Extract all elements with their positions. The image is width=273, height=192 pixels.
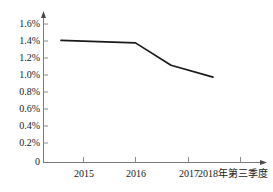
data-series-line <box>61 40 213 77</box>
chart-canvas <box>0 0 273 192</box>
x-axis-arrow-icon <box>260 160 267 165</box>
y-tick-label-4: 1.0% <box>4 70 40 80</box>
y-tick-label-8: 0.2% <box>4 138 40 148</box>
y-tick-label-7: 0.4% <box>4 121 40 131</box>
x-tick-label-2016: 2016 <box>110 168 162 179</box>
x-tick-label-2015: 2015 <box>58 168 110 179</box>
y-tick-label-5: 0.8% <box>4 87 40 97</box>
x-axis-ticks <box>84 157 241 163</box>
y-tick-label-2: 1.4% <box>4 36 40 46</box>
y-tick-label-9: 0 <box>4 157 40 167</box>
y-axis-ticks <box>44 24 49 143</box>
y-tick-label-6: 0.6% <box>4 104 40 114</box>
x-tick-label-2018q3: 2018年第三季度 <box>193 168 273 179</box>
y-axis-arrow-icon <box>41 11 46 18</box>
y-tick-label-3: 1.2% <box>4 53 40 63</box>
y-tick-label-1: 1.6% <box>4 19 40 29</box>
line-chart: 1.6% 1.4% 1.2% 1.0% 0.8% 0.6% 0.4% 0.2% … <box>0 0 273 192</box>
